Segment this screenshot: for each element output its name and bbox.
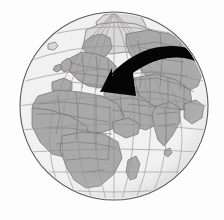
- globe-figure: Grayscale orthographic globe centered on…: [0, 0, 224, 220]
- globe-svg: [0, 0, 224, 220]
